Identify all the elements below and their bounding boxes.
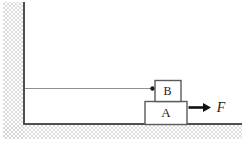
block-b-label: B bbox=[163, 84, 171, 98]
wall-hatch bbox=[3, 2, 24, 139]
block-a-label: A bbox=[161, 105, 171, 120]
floor-hatch bbox=[3, 125, 242, 139]
force-arrow-head bbox=[203, 103, 211, 112]
force-label: F bbox=[216, 100, 226, 115]
string-attachment-dot bbox=[150, 86, 154, 90]
physics-diagram: A B F bbox=[0, 0, 245, 145]
